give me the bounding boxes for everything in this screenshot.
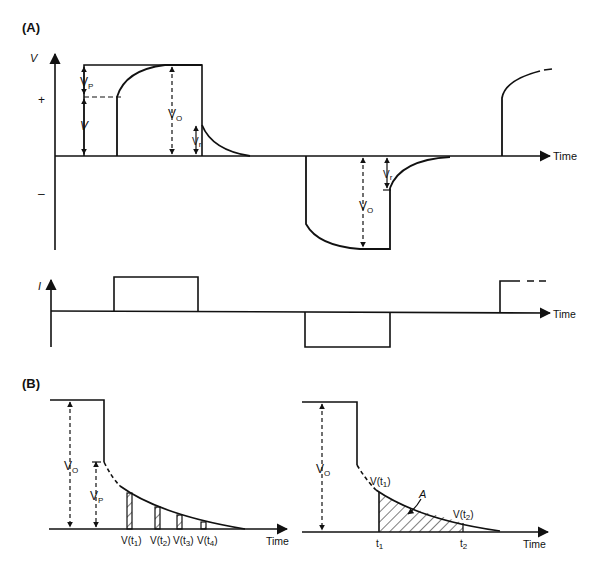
integrated-area-plot	[302, 402, 548, 532]
panel-a-label: (A)	[22, 20, 40, 35]
vo-negative-label: VO	[359, 199, 373, 215]
panel-b-label: (B)	[22, 376, 40, 391]
vt2-label: V(t2)	[453, 509, 474, 522]
current-x-axis	[51, 311, 550, 313]
vp-label: VP	[80, 75, 93, 91]
current-pulse-negative	[305, 312, 390, 347]
response-decay-positive	[202, 125, 250, 156]
b-right-vo-label: VO	[316, 462, 330, 478]
vo-label: VO	[168, 107, 182, 123]
vt1-label: V(t1)	[370, 476, 391, 489]
plus-sign: +	[38, 93, 45, 107]
continuation-dash	[544, 69, 552, 70]
sample-label-2: V(t2)	[150, 535, 171, 548]
b-right-time-label: Time	[523, 538, 546, 550]
diagram-canvas: (A) V + – Time VP V VO Vr VO Vr	[0, 0, 603, 572]
minus-sign: –	[38, 187, 45, 201]
sampled-current-plot	[49, 400, 287, 529]
current-pulse-next	[500, 281, 520, 313]
response-negative-pulse	[306, 156, 390, 249]
current-pulse-positive	[114, 277, 198, 312]
voltage-dimensions	[84, 67, 391, 247]
applied-voltage-pulse	[84, 65, 202, 156]
sample-label-4: V(t4)	[197, 535, 218, 548]
vr-negative-label: Vr	[383, 169, 393, 182]
current-axis-label: I	[38, 280, 41, 292]
vr-label: Vr	[192, 136, 202, 149]
voltage-plot	[55, 54, 552, 250]
t2-label: t2	[460, 538, 468, 551]
response-rise-next	[502, 71, 540, 156]
response-decay-negative	[390, 157, 450, 188]
current-plot	[51, 277, 550, 347]
response-rise-positive	[117, 65, 202, 156]
b-left-vp-label: VP	[90, 489, 103, 505]
sample-label-1: V(t1)	[121, 535, 142, 548]
voltage-axis-label: V	[30, 52, 39, 64]
sample-label-3: V(t3)	[173, 535, 194, 548]
v-label: V	[80, 119, 89, 133]
voltage-time-label: Time	[553, 150, 577, 162]
area-label: A	[418, 488, 426, 500]
current-time-label: Time	[553, 308, 576, 320]
b-left-vo-label: VO	[64, 459, 78, 475]
b-left-time-label: Time	[266, 535, 289, 547]
t1-label: t1	[376, 538, 384, 551]
